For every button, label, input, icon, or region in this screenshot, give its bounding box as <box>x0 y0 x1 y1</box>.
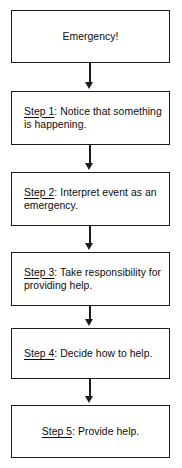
flow-node-step-2: Step 2: Interpret event as an emergency. <box>11 172 170 226</box>
flow-node-text: Step 4: Decide how to help. <box>18 347 163 360</box>
connector-line-2 <box>89 145 91 165</box>
arrowhead-icon-3 <box>85 243 93 250</box>
step-body-4: : Decide how to help. <box>54 348 152 359</box>
step-label-5: Step 5 <box>42 426 72 437</box>
flow-node-text: Step 1: Notice that something is happeni… <box>18 105 163 132</box>
arrowhead-icon-5 <box>85 396 93 403</box>
step-label-4: Step 4 <box>24 348 54 359</box>
flow-node-text: Step 5: Provide help. <box>18 425 163 438</box>
flow-node-text: Step 3: Take responsibility for providin… <box>18 266 163 293</box>
flow-node-step-1: Step 1: Notice that something is happeni… <box>11 91 170 145</box>
step-label-3: Step 3 <box>24 267 54 278</box>
flow-node-step-3: Step 3: Take responsibility for providin… <box>11 252 170 306</box>
flow-node-emergency: Emergency! <box>11 10 170 63</box>
step-label-1: Step 1 <box>24 106 54 117</box>
arrowhead-icon-4 <box>85 319 93 326</box>
flow-node-text: Step 2: Interpret event as an emergency. <box>18 186 163 213</box>
step-body-5: : Provide help. <box>72 426 139 437</box>
arrowhead-icon-1 <box>85 82 93 89</box>
step-label-2: Step 2 <box>24 187 54 198</box>
connector-line-1 <box>89 63 91 84</box>
flow-node-step-5: Step 5: Provide help. <box>11 405 170 458</box>
arrowhead-icon-2 <box>85 163 93 170</box>
flowchart-diagram: Emergency! Step 1: Notice that something… <box>0 0 182 468</box>
flow-node-step-4: Step 4: Decide how to help. <box>11 328 170 379</box>
flow-node-text: Emergency! <box>18 30 163 43</box>
node-label-emergency: Emergency! <box>63 31 119 42</box>
